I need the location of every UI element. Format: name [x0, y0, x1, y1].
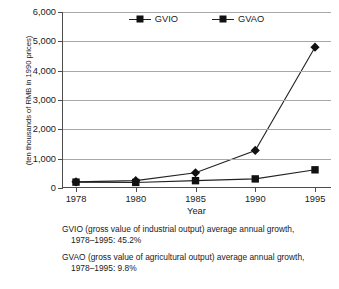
gridline — [62, 129, 331, 130]
y-tick-label: 5,000 — [14, 36, 56, 46]
gridline — [62, 41, 331, 42]
footnote-gvio: GVIO (gross value of industrial output) … — [62, 224, 334, 245]
y-tick-label: 0 — [14, 183, 56, 193]
y-tick-label: 1,000 — [14, 154, 56, 164]
gridline — [62, 100, 331, 101]
x-tick-label: 1985 — [185, 194, 206, 204]
data-point-gvao — [132, 179, 139, 186]
data-point-gvao — [252, 175, 259, 182]
data-point-gvao — [192, 177, 199, 184]
y-tick-mark — [58, 188, 63, 189]
data-point-gvao — [311, 166, 318, 173]
data-point-gvao — [72, 178, 79, 185]
x-tick-mark — [315, 187, 316, 192]
x-tick-label: 1978 — [66, 194, 87, 204]
data-point-gvio — [191, 168, 200, 177]
series-line-gvio — [76, 47, 315, 182]
plot-area: 01,0002,0003,0004,0005,0006,000 19781980… — [62, 12, 331, 188]
y-tick-label: 2,000 — [14, 124, 56, 134]
y-tick-label: 6,000 — [14, 7, 56, 17]
gridline — [62, 12, 331, 13]
footnote-gvao-line1: GVAO (gross value of agricultural output… — [62, 252, 304, 262]
x-tick-mark — [136, 187, 137, 192]
y-tick-mark — [58, 159, 63, 160]
x-axis-title: Year — [62, 206, 331, 216]
y-tick-mark — [58, 41, 63, 42]
x-tick-mark — [76, 187, 77, 192]
gridline — [62, 71, 331, 72]
x-axis-line — [62, 187, 331, 188]
y-tick-label: 4,000 — [14, 66, 56, 76]
chart-figure: (ten thousands of RMB in 1990 prices) 01… — [0, 0, 339, 289]
x-tick-label: 1980 — [125, 194, 146, 204]
data-point-gvio — [310, 43, 319, 52]
y-tick-mark — [58, 71, 63, 72]
y-tick-mark — [58, 129, 63, 130]
x-tick-mark — [196, 187, 197, 192]
y-tick-label: 3,000 — [14, 95, 56, 105]
footnote-gvio-line2: 1978–1995: 45.2% — [62, 235, 334, 246]
y-tick-mark — [58, 12, 63, 13]
chart-footnotes: GVIO (gross value of industrial output) … — [62, 224, 334, 280]
x-tick-mark — [255, 187, 256, 192]
footnote-gvao: GVAO (gross value of agricultural output… — [62, 252, 334, 273]
x-tick-label: 1990 — [245, 194, 266, 204]
y-tick-mark — [58, 100, 63, 101]
footnote-gvao-line2: 1978–1995: 9.8% — [62, 263, 334, 274]
data-point-gvio — [251, 146, 260, 155]
x-tick-label: 1995 — [305, 194, 326, 204]
footnote-gvio-line1: GVIO (gross value of industrial output) … — [62, 224, 294, 234]
gridline — [62, 159, 331, 160]
